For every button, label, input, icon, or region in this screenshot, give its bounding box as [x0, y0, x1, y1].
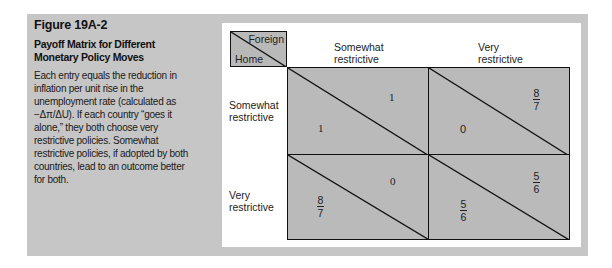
row-player-label: Home [235, 53, 263, 65]
cell-diagonal-line [429, 155, 570, 240]
home-payoff: 1 [318, 123, 324, 134]
home-payoff: 56 [460, 199, 467, 222]
home-payoff: 87 [317, 195, 324, 218]
figure-caption: Figure 19A-2 Payoff Matrix for Different… [34, 18, 194, 186]
payoff-matrix: 1 1 87 0 0 87 56 56 [287, 67, 570, 240]
column-header-line: Somewhat [334, 41, 384, 53]
row-header-very-restrictive: Very restrictive [229, 189, 274, 213]
matrix-corner-label: Foreign Home [230, 31, 287, 67]
figure-description: Each entry equals the reduction in infla… [34, 69, 194, 186]
denominator: 7 [318, 208, 324, 218]
denominator: 6 [534, 184, 540, 194]
figure-number: Figure 19A-2 [34, 18, 194, 32]
cell-very-very: 56 56 [428, 154, 570, 240]
column-player-label: Foreign [248, 33, 284, 45]
cell-somewhat-somewhat: 1 1 [287, 67, 430, 156]
column-header-line: restrictive [478, 53, 523, 65]
cell-very-somewhat: 0 87 [287, 154, 430, 240]
home-payoff: 0 [460, 124, 466, 135]
numerator: 5 [534, 171, 540, 181]
row-header-line: Very [229, 189, 274, 201]
column-header-line: restrictive [334, 53, 384, 65]
numerator: 8 [534, 88, 540, 98]
foreign-payoff: 1 [389, 92, 395, 103]
denominator: 6 [461, 212, 467, 222]
cell-diagonal-line [429, 68, 570, 156]
numerator: 8 [318, 195, 324, 205]
numerator: 5 [461, 199, 467, 209]
column-header-somewhat-restrictive: Somewhat restrictive [334, 41, 384, 65]
foreign-payoff: 87 [533, 88, 540, 111]
foreign-payoff: 56 [533, 171, 540, 194]
row-header-line: restrictive [229, 201, 274, 213]
row-header-somewhat-restrictive: Somewhat restrictive [229, 99, 279, 123]
cell-diagonal-line [288, 155, 430, 240]
row-header-line: Somewhat [229, 99, 279, 111]
column-header-line: Very [478, 41, 523, 53]
denominator: 7 [534, 101, 540, 111]
foreign-payoff: 0 [390, 176, 396, 187]
row-header-line: restrictive [229, 111, 279, 123]
figure-title: Payoff Matrix for Different Monetary Pol… [34, 38, 194, 64]
cell-diagonal-line [288, 68, 430, 156]
column-header-very-restrictive: Very restrictive [478, 41, 523, 65]
cell-somewhat-very: 87 0 [428, 67, 570, 156]
